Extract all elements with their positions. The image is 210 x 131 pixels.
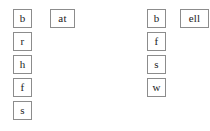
onset-tile-b-ell[interactable]: b [147,9,166,28]
onset-tile-w-ell[interactable]: w [147,78,166,97]
onset-tile-s-ell[interactable]: s [147,55,166,74]
group-ell-word-family: b f s w ell [0,0,210,131]
onset-tile-f-ell[interactable]: f [147,32,166,51]
rime-tile-ell[interactable]: ell [180,9,209,28]
tile-canvas: b r h f s at b f s w ell [0,0,210,131]
